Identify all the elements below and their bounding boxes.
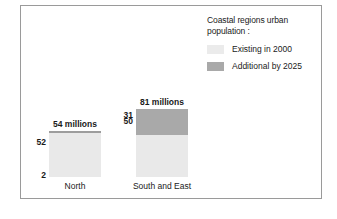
bar-segment-label-existing-north: 52: [37, 137, 46, 147]
bar-segment-label-existing-south-and-east: 50: [124, 116, 133, 126]
bar-segment-additional-south-and-east: 31: [136, 109, 188, 135]
bar-group-south-and-east: 81 millions 31 50 South and East: [136, 109, 188, 177]
bar-total-label-south-and-east: 81 millions: [140, 97, 184, 107]
bar-segment-existing-south-and-east: 50: [136, 135, 188, 177]
category-label-south-and-east: South and East: [133, 181, 191, 191]
bar-total-label-north: 54 millions: [53, 119, 97, 129]
bar-group-north: 54 millions 2 52 North: [49, 131, 101, 177]
plot-area: 54 millions 2 52 North 81 millions 31 50: [21, 6, 323, 200]
stacked-bar-north: 54 millions 2 52: [49, 131, 101, 177]
category-label-north: North: [65, 181, 86, 191]
bar-segment-existing-north: 52: [49, 133, 101, 177]
stacked-bar-south-and-east: 81 millions 31 50: [136, 109, 188, 177]
bar-segment-label-additional-north: 2: [41, 170, 46, 180]
chart-figure: Coastal regions urban population : Exist…: [20, 5, 322, 199]
